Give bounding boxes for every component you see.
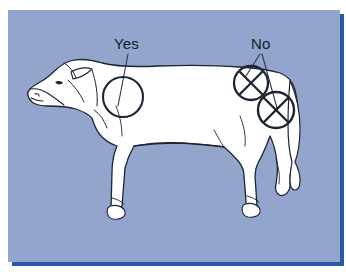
cow-body-outline — [28, 60, 299, 216]
cow-hoof-rear — [242, 203, 260, 217]
cow-hoof-front — [107, 205, 125, 219]
cow-figure — [28, 60, 300, 220]
label-yes: Yes — [114, 36, 139, 51]
cow-injection-site-illustration — [8, 10, 340, 262]
cow-tail — [288, 80, 300, 190]
illustration-card: Yes No — [8, 10, 340, 262]
label-no: No — [251, 36, 271, 51]
figure-canvas: Yes No — [0, 0, 346, 272]
